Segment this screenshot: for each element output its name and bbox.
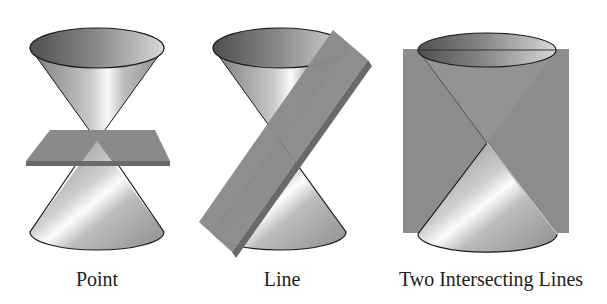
caption-line: Line	[264, 268, 301, 291]
caption-point: Point	[76, 268, 118, 291]
panel-two-intersecting-lines	[403, 33, 569, 252]
panel-line	[199, 28, 372, 258]
upper-cone-top	[30, 28, 164, 68]
degenerate-conics-diagram	[0, 0, 607, 304]
caption-two-intersecting-lines: Two Intersecting Lines	[399, 268, 583, 291]
panel-point	[26, 28, 170, 250]
